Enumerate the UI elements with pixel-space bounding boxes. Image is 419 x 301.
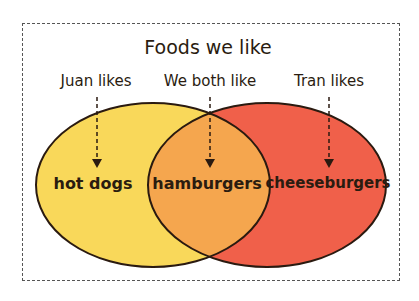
label-tran-likes: Tran likes [294,72,364,90]
item-hamburgers: hamburgers [152,174,261,193]
item-hot-dogs: hot dogs [53,174,132,193]
label-juan-likes: Juan likes [61,72,132,90]
item-cheeseburgers: cheeseburgers [265,174,390,192]
label-both-like: We both like [164,72,257,90]
diagram-title: Foods we like [144,36,271,58]
